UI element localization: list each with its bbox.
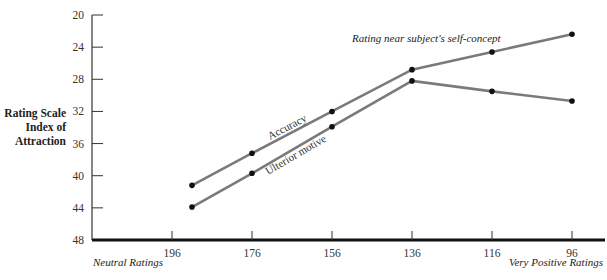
data-point (329, 124, 335, 130)
x-axis-label-left: Neutral Ratings (93, 256, 163, 268)
x-axis-label-right: Very Positive Ratings (509, 256, 603, 268)
data-point (409, 78, 415, 84)
y-tick-label: 48 (73, 234, 85, 246)
data-point (249, 171, 255, 177)
x-tick-label: 116 (484, 247, 501, 259)
data-point (489, 89, 495, 95)
x-tick-label: 196 (163, 247, 181, 259)
x-tick-label: 176 (243, 247, 261, 259)
y-axis-label-line-2: Index of (4, 120, 66, 134)
y-tick-label: 28 (73, 73, 85, 85)
line-chart: 202428323640444819617615613611696Accurac… (0, 0, 607, 280)
y-axis-label-line-3: Attraction (4, 134, 66, 148)
data-point (569, 98, 575, 104)
y-tick-label: 44 (73, 202, 85, 214)
data-point (409, 67, 415, 73)
series-line-ulterior-motive (192, 81, 572, 207)
annotation-self-concept: Rating near subject's self-concept (352, 32, 501, 44)
y-tick-label: 20 (73, 9, 85, 21)
data-point (329, 109, 335, 115)
data-point (489, 49, 495, 55)
y-tick-label: 40 (73, 170, 85, 182)
x-tick-label: 156 (323, 247, 341, 259)
x-tick-label: 136 (403, 247, 421, 259)
y-axis-label-line-1: Rating Scale (4, 106, 66, 120)
data-point (249, 150, 255, 156)
y-tick-label: 24 (73, 41, 85, 53)
y-axis-label: Rating Scale Index of Attraction (4, 106, 66, 148)
data-point (569, 31, 575, 37)
data-point (189, 204, 195, 210)
y-tick-label: 32 (73, 105, 85, 117)
y-tick-label: 36 (73, 138, 85, 150)
series-line-accuracy (192, 34, 572, 185)
data-point (189, 183, 195, 189)
